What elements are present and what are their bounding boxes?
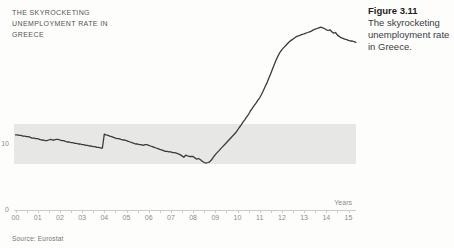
y-tick-label-0: 0 [0, 206, 9, 213]
x-tick-label-10: 10 [228, 214, 248, 221]
x-axis-tick [282, 211, 283, 213]
x-axis-tick [27, 211, 28, 213]
x-axis-tick [326, 211, 327, 213]
x-tick-label-13: 13 [294, 214, 314, 221]
x-axis-tick [60, 211, 61, 213]
x-axis-tick [215, 211, 216, 213]
y-tick-label-10: 10 [0, 140, 9, 147]
x-tick-label-08: 08 [183, 214, 203, 221]
x-axis-tick [93, 211, 94, 213]
x-axis-tick [104, 211, 105, 213]
x-axis-tick [49, 211, 50, 213]
x-axis-tick [171, 211, 172, 213]
x-axis-title: Years [310, 199, 352, 206]
x-axis-tick [304, 211, 305, 213]
x-tick-label-11: 11 [250, 214, 270, 221]
x-tick-label-15: 15 [339, 214, 359, 221]
x-tick-label-05: 05 [117, 214, 137, 221]
x-axis-tick [82, 211, 83, 213]
x-axis-tick [71, 211, 72, 213]
x-axis-tick [271, 211, 272, 213]
x-axis-tick [349, 211, 350, 213]
x-axis-tick [293, 211, 294, 213]
x-tick-label-07: 07 [161, 214, 181, 221]
x-axis-tick [115, 211, 116, 213]
x-axis-tick [204, 211, 205, 213]
x-axis-tick [16, 211, 17, 213]
x-tick-label-06: 06 [139, 214, 159, 221]
x-axis-tick [260, 211, 261, 213]
x-axis-tick [193, 211, 194, 213]
x-tick-label-14: 14 [316, 214, 336, 221]
x-axis-tick [315, 211, 316, 213]
x-axis-tick [337, 211, 338, 213]
source-note: Source: Eurostat [12, 235, 64, 242]
x-tick-label-00: 00 [6, 214, 26, 221]
x-tick-label-04: 04 [94, 214, 114, 221]
x-axis-tick [127, 211, 128, 213]
x-axis-tick [149, 211, 150, 213]
figure-page: THE SKYROCKETING UNEMPLOYMENT RATE IN GR… [0, 0, 454, 248]
x-axis-tick [182, 211, 183, 213]
x-tick-label-09: 09 [205, 214, 225, 221]
x-tick-label-12: 12 [272, 214, 292, 221]
x-axis-tick [226, 211, 227, 213]
unemployment-line [16, 27, 356, 163]
x-axis-tick [238, 211, 239, 213]
x-tick-label-03: 03 [72, 214, 92, 221]
x-axis-tick [38, 211, 39, 213]
x-tick-label-02: 02 [50, 214, 70, 221]
x-tick-label-01: 01 [28, 214, 48, 221]
x-axis-tick [249, 211, 250, 213]
x-axis-tick [160, 211, 161, 213]
x-axis-tick [138, 211, 139, 213]
